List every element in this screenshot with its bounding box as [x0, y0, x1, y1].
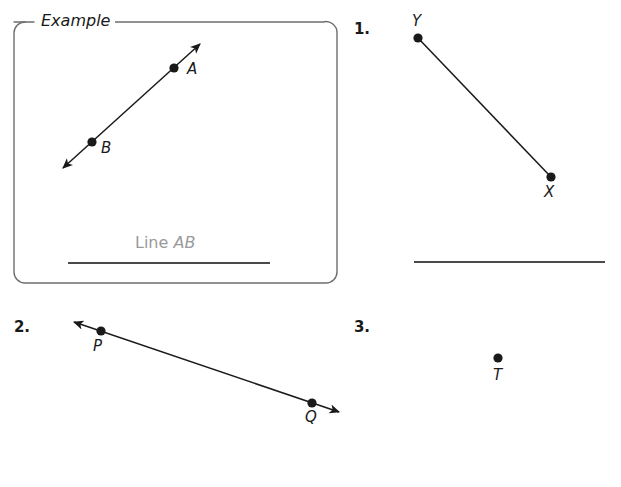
- point-label-x: X: [544, 185, 554, 200]
- example-answer-prefix: Line: [135, 233, 173, 252]
- geometry-worksheet: Example A B Line AB 1. Y X 2. P Q 3. T: [0, 0, 621, 487]
- point-dot-x: [546, 172, 555, 181]
- point-dot-q: [307, 398, 316, 407]
- point-label-t: T: [493, 368, 502, 383]
- point-dot-p: [96, 326, 105, 335]
- point-dot-a: [169, 63, 178, 72]
- problem-3-number: 3.: [354, 318, 370, 336]
- point-dot-t: [493, 353, 502, 362]
- problem-2-number: 2.: [14, 318, 30, 336]
- example-figure-line-ab: [63, 44, 200, 168]
- problem-2-figure-line-pq: [74, 322, 339, 412]
- point-label-b: B: [101, 141, 111, 156]
- point-label-y: Y: [412, 14, 421, 29]
- example-answer-text: Line AB: [135, 235, 195, 251]
- point-label-q: Q: [305, 410, 317, 425]
- point-label-a: A: [187, 62, 197, 77]
- point-label-p: P: [93, 339, 102, 354]
- example-box-title: Example: [36, 13, 115, 29]
- problem-3-figure-point-t: [493, 353, 502, 362]
- problem-1-number: 1.: [354, 20, 370, 38]
- example-answer-names: AB: [173, 233, 195, 252]
- problem-1-figure-segment-yx: [413, 33, 555, 181]
- point-dot-b: [87, 137, 96, 146]
- point-dot-y: [413, 33, 422, 42]
